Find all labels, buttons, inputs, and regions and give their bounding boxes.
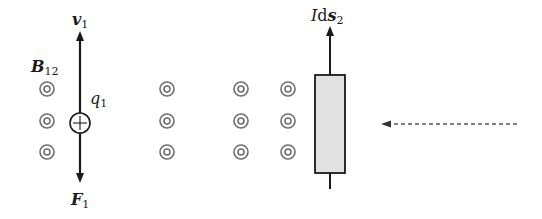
label-B12-sub: 12 (45, 65, 59, 78)
field-out-icon (281, 114, 295, 128)
label-Ids2-d: d (317, 6, 327, 25)
field-out-icon (234, 82, 248, 96)
label-v1-symbol: v (72, 10, 81, 29)
conductor-segment (315, 75, 345, 173)
label-q1: q1 (90, 91, 107, 109)
field-out-icon (160, 114, 174, 128)
label-F1-sub: 1 (82, 198, 89, 211)
field-out-icon (281, 82, 295, 96)
label-Ids2-sub: 2 (337, 14, 344, 27)
label-v1: v1 (72, 12, 88, 30)
label-Ids2-symbol: s (328, 6, 337, 25)
label-F1-symbol: F (71, 190, 82, 209)
field-out-icon (160, 145, 174, 159)
label-B12-symbol: B (31, 57, 45, 76)
field-out-icon (40, 114, 54, 128)
field-out-icon (160, 82, 174, 96)
diagram-canvas (0, 0, 542, 219)
label-F1: F1 (71, 192, 89, 210)
label-v1-sub: 1 (81, 18, 88, 31)
label-B12: B12 (31, 59, 59, 77)
field-out-icon (40, 82, 54, 96)
label-q1-symbol: q (90, 89, 100, 108)
field-out-icon (234, 145, 248, 159)
positive-charge-icon (70, 113, 90, 133)
field-out-icon (234, 114, 248, 128)
label-q1-sub: 1 (100, 97, 107, 110)
field-out-icon (281, 145, 295, 159)
field-out-icon (40, 145, 54, 159)
label-Ids2: Ids2 (311, 8, 344, 26)
